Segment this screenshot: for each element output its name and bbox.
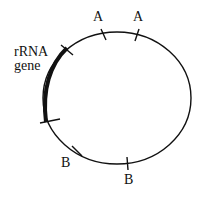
gene-label-rrna: rRNA	[14, 44, 49, 59]
site-b-left-label: B	[61, 155, 70, 170]
gene-end-tick	[40, 119, 60, 123]
gene-label-gene: gene	[14, 58, 40, 73]
site-b-bottom-label: B	[124, 172, 133, 187]
site-a-left-label: A	[93, 9, 104, 24]
site-a-left-tick	[101, 29, 106, 40]
site-a-right-label: A	[133, 9, 144, 24]
circular-dna-map: rRNA gene A A B B	[0, 0, 205, 197]
rrna-gene-arc	[45, 48, 67, 122]
site-b-bottom-tick	[127, 157, 128, 170]
